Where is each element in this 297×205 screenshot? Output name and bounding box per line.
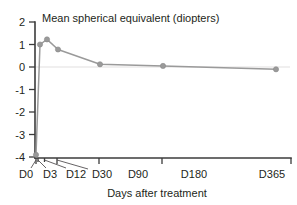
data-point-d365 (273, 67, 278, 72)
x-axis-ticks (36, 158, 291, 164)
x-tick-label-d12: D12 (66, 168, 86, 180)
x-axis-labels: D0 D3 D12 D30 D90 D180 D365 (19, 168, 285, 180)
line-chart: 2 1 0 -1 -2 -3 -4 D0 D3 (0, 0, 297, 205)
x-tick-label-d180: D180 (181, 168, 207, 180)
leader-line-d0 (31, 160, 36, 168)
data-point-d180 (160, 63, 165, 68)
y-tick-label-neg3: -3 (15, 129, 25, 141)
y-tick-label-0: 0 (19, 61, 25, 73)
y-tick-label-neg4: -4 (15, 151, 25, 163)
data-point-d12 (44, 37, 49, 42)
x-tick-label-d0: D0 (19, 168, 33, 180)
y-tick-label-2: 2 (19, 16, 25, 28)
y-tick-label-neg2: -2 (15, 106, 25, 118)
data-point-d30 (55, 47, 60, 52)
chart-title: Mean spherical equivalent (diopters) (42, 12, 219, 24)
x-tick-label-d90: D90 (128, 168, 148, 180)
data-point-d0 (33, 152, 38, 157)
x-axis-title: Days after treatment (107, 187, 207, 199)
y-tick-label-1: 1 (19, 39, 25, 51)
y-axis-labels: 2 1 0 -1 -2 -3 -4 (15, 16, 25, 163)
leader-line-d12 (45, 160, 67, 168)
series-line-mean-spherical-equivalent (36, 39, 276, 154)
data-point-d90 (97, 62, 102, 67)
chart-figure: 2 1 0 -1 -2 -3 -4 D0 D3 (0, 0, 297, 205)
data-point-d3 (37, 42, 42, 47)
series-markers (33, 37, 278, 158)
y-axis-ticks (29, 22, 35, 157)
x-tick-label-d3: D3 (43, 168, 57, 180)
y-tick-label-neg1: -1 (15, 84, 25, 96)
x-tick-label-d365: D365 (259, 168, 285, 180)
x-tick-label-d30: D30 (92, 168, 112, 180)
